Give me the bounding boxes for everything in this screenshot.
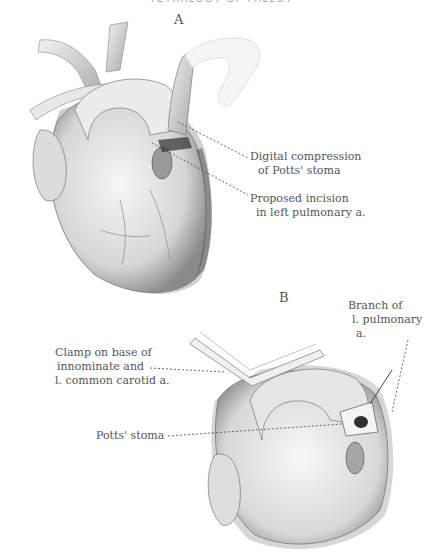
label-line: a.	[348, 327, 422, 341]
label-proposed-incision: Proposed incision in left pulmonary a.	[250, 192, 365, 220]
label-line: l. pulmonary	[348, 313, 422, 327]
label-clamp: Clamp on base of innominate and l. commo…	[55, 346, 170, 388]
label-line: Clamp on base of	[55, 346, 170, 360]
label-line: Digital compression	[250, 150, 361, 164]
label-line: Potts' stoma	[96, 429, 164, 443]
label-line: Proposed incision	[250, 192, 365, 206]
surgical-illustration	[0, 0, 443, 554]
label-digital-compression: Digital compression of Potts' stoma	[250, 150, 361, 178]
panel-b-letter: B	[279, 290, 289, 305]
label-line: Branch of	[348, 299, 422, 313]
label-line: of Potts' stoma	[250, 164, 361, 178]
label-line: in left pulmonary a.	[250, 206, 365, 220]
panel-a-drawing	[30, 22, 260, 294]
label-line: innominate and	[55, 360, 170, 374]
label-line: l. common carotid a.	[55, 374, 170, 388]
panel-b-drawing	[150, 332, 408, 549]
panel-a-letter: A	[174, 12, 183, 27]
label-potts-stoma: Potts' stoma	[96, 429, 164, 443]
label-branch-pulmonary: Branch of l. pulmonary a.	[348, 299, 422, 341]
